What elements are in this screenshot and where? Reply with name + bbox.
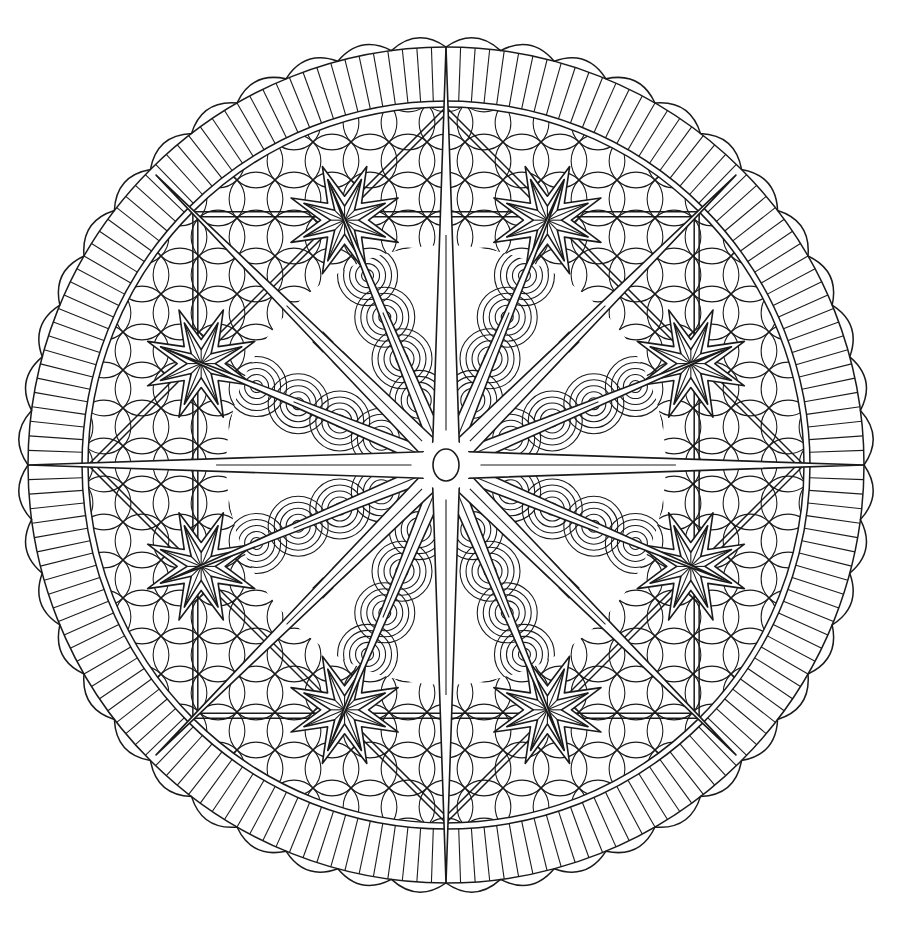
mandala-svg: [0, 0, 909, 931]
center-hub: [420, 439, 472, 491]
mandala-artwork: [0, 0, 909, 931]
